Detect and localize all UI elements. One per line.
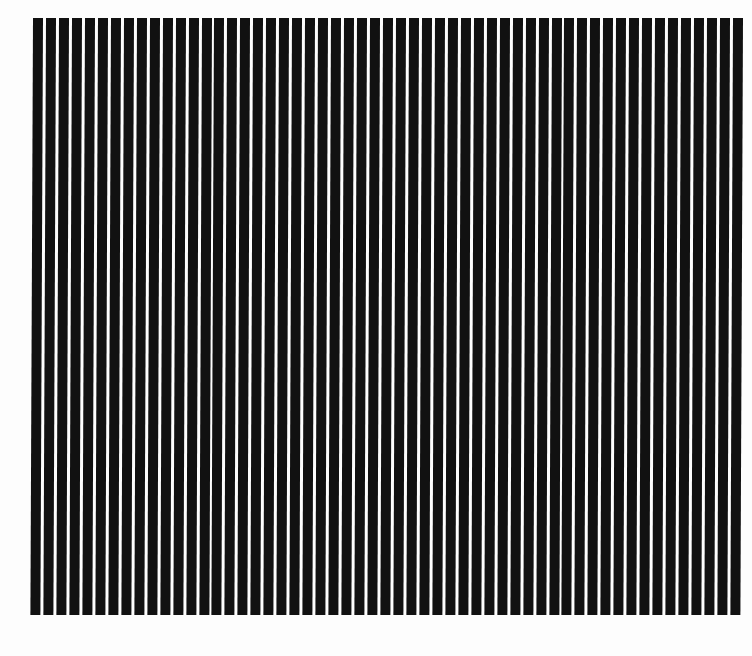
stripe-bar	[199, 18, 212, 615]
stripe-bar	[238, 18, 251, 615]
stripe-bar	[367, 18, 380, 615]
stripe-bar	[549, 18, 562, 615]
stripe-bar	[173, 18, 186, 615]
stripe-bar	[653, 18, 666, 615]
stripe-bar	[225, 18, 238, 615]
stripe-bar	[95, 18, 108, 615]
stripe-bar	[614, 18, 627, 615]
stripe-bar	[692, 18, 705, 615]
stripe-bar	[186, 18, 199, 615]
stripe-bar	[717, 18, 730, 615]
stripe-bar	[303, 18, 316, 615]
stripe-bar	[316, 18, 329, 615]
stripe-bar	[393, 18, 406, 615]
stripe-bar	[497, 18, 510, 615]
stripe-bar	[329, 18, 342, 615]
stripe-bar	[704, 18, 717, 615]
stripe-bar	[251, 18, 264, 615]
stripe-bar	[458, 18, 471, 615]
stripe-bar	[43, 18, 56, 615]
stripe-bar	[627, 18, 640, 615]
stripe-bar	[419, 18, 432, 615]
stripe-bar	[471, 18, 484, 615]
stripe-grating	[30, 18, 743, 615]
stripe-bar	[536, 18, 549, 615]
stripe-bar	[523, 18, 536, 615]
stripe-bar	[484, 18, 497, 615]
stripe-bar	[290, 18, 303, 615]
stripe-bar	[69, 18, 82, 615]
stripe-bar	[445, 18, 458, 615]
stripe-bar	[562, 18, 575, 615]
stripe-bar	[601, 18, 614, 615]
stripe-bar	[121, 18, 134, 615]
stripe-bar	[212, 18, 225, 615]
stripe-bar	[147, 18, 160, 615]
stripe-bar	[575, 18, 588, 615]
stripe-bar	[588, 18, 601, 615]
stripe-bar	[666, 18, 679, 615]
stripe-bar	[679, 18, 692, 615]
stripe-bar	[510, 18, 523, 615]
image-canvas	[0, 0, 752, 656]
stripe-bar	[640, 18, 653, 615]
stripe-bar	[342, 18, 355, 615]
stripe-bar	[277, 18, 290, 615]
stripe-bar	[380, 18, 393, 615]
stripe-bar	[354, 18, 367, 615]
stripe-bar	[56, 18, 69, 615]
stripe-bar	[730, 18, 743, 615]
stripe-bar	[134, 18, 147, 615]
stripe-bar	[108, 18, 121, 615]
stripe-bar	[160, 18, 173, 615]
stripe-bar	[432, 18, 445, 615]
stripe-bar	[30, 18, 43, 615]
stripe-bar	[264, 18, 277, 615]
stripe-bar	[82, 18, 95, 615]
stripe-bar	[406, 18, 419, 615]
